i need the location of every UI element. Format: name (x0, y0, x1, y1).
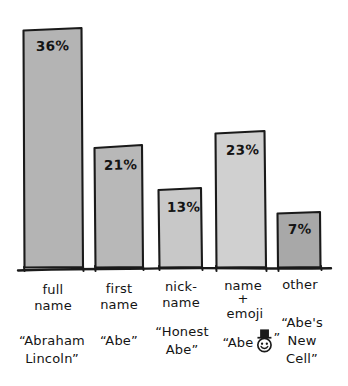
example-first-name-line-1: “Abe” (100, 333, 138, 348)
example-annotation-other: “Abe's New Cell” (281, 315, 323, 366)
category-label-name-plus-emoji-line-3: emoji (227, 306, 264, 321)
bar-group-first-name[interactable]: 21% (95, 145, 144, 268)
chart-canvas: 36% 21% 13% 23% 7% (0, 0, 348, 386)
axis-tick-4 (143, 266, 144, 270)
category-label-first-name: first name (100, 281, 138, 312)
bar-value-label-full-name: 36% (36, 37, 70, 54)
example-name-plus-emoji-line-1: “Abe (222, 335, 253, 350)
axis-tick-2 (83, 266, 84, 271)
axis-tick-5 (159, 266, 160, 270)
tophat-smiley-emoji (257, 329, 271, 351)
category-label-nickname: nick- name (162, 279, 200, 310)
axis-tick-10 (321, 266, 322, 270)
bar-value-label-nickname: 13% (167, 198, 201, 215)
bar-value-label-first-name: 21% (104, 156, 138, 173)
example-nickname-line-1: “Honest (155, 324, 209, 339)
example-name-plus-emoji-line-2: ” (274, 330, 281, 345)
x-axis-baseline (18, 268, 331, 270)
category-label-full-name-line-2: name (34, 298, 72, 313)
bar-group-other[interactable]: 7% (278, 212, 321, 268)
bar-group-name-plus-emoji[interactable]: 23% (216, 131, 267, 268)
example-annotation-full-name: “Abraham Lincoln” (19, 333, 85, 366)
category-label-full-name: full name (34, 282, 72, 313)
bar-group-full-name[interactable]: 36% (24, 28, 84, 268)
category-label-full-name-line-1: full (43, 282, 64, 297)
axis-tick-3 (95, 266, 96, 271)
category-label-first-name-line-1: first (106, 281, 132, 296)
category-label-other-line-1: other (282, 277, 318, 292)
example-annotation-first-name: “Abe” (100, 333, 138, 348)
example-other-line-1: “Abe's (281, 315, 323, 330)
bar-group-nickname[interactable]: 13% (159, 188, 203, 268)
bar-value-label-name-plus-emoji: 23% (226, 141, 260, 158)
axis-tick-8 (266, 266, 267, 271)
bar-chart-figure: 36% 21% 13% 23% 7% (0, 0, 348, 386)
bar-full-name[interactable] (24, 28, 84, 268)
axis-tick-1 (24, 267, 25, 271)
category-label-nickname-line-2: name (162, 295, 200, 310)
axis-tick-7 (216, 266, 217, 271)
example-annotation-nickname: “Honest Abe” (155, 324, 209, 357)
category-label-name-plus-emoji-line-2: + (237, 291, 248, 306)
bar-value-label-other: 7% (288, 221, 312, 237)
axis-tick-9 (278, 266, 279, 271)
category-label-name-plus-emoji: name + emoji (224, 278, 263, 321)
example-other-line-3: Cell” (286, 351, 318, 366)
example-annotation-name-plus-emoji: “Abe ” (222, 329, 280, 351)
category-label-first-name-line-2: name (100, 297, 138, 312)
example-full-name-line-2: Lincoln” (25, 351, 79, 366)
axis-tick-6 (202, 266, 203, 270)
example-nickname-line-2: Abe” (166, 342, 199, 357)
category-label-nickname-line-1: nick- (165, 279, 197, 294)
category-label-other: other (282, 277, 318, 292)
example-other-line-2: New (288, 333, 317, 348)
example-full-name-line-1: “Abraham (19, 333, 85, 348)
